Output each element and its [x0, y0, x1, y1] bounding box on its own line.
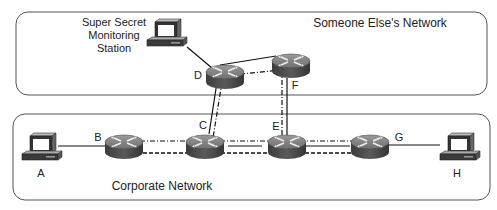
router-c-icon: [186, 135, 224, 159]
link-d-f-solid: [220, 56, 276, 65]
host-h-label: H: [453, 167, 461, 179]
link-d-c-dashdot: [213, 82, 222, 138]
link-monitor-d: [187, 47, 212, 68]
router-f-label: F: [292, 79, 299, 91]
host-a-label: A: [37, 167, 45, 179]
router-d-label: D: [194, 69, 202, 81]
monitoring-station-label-3: Station: [97, 42, 131, 54]
external-network-label: Someone Else's Network: [313, 16, 448, 30]
monitoring-station-computer-icon: [147, 19, 187, 46]
router-b-icon: [105, 135, 143, 159]
router-g-icon: [351, 135, 389, 159]
router-c-label: C: [199, 119, 207, 131]
link-d-c-solid: [209, 82, 217, 134]
host-a-computer-icon: [22, 133, 62, 160]
monitoring-station-label-2: Monitoring: [88, 29, 139, 41]
router-f-icon: [272, 54, 310, 78]
corporate-network-label: Corporate Network: [112, 179, 214, 193]
router-e-icon: [268, 135, 306, 159]
network-diagram: Someone Else's Network Corporate Network…: [0, 0, 497, 210]
router-b-label: B: [94, 131, 101, 143]
router-e-label: E: [272, 120, 279, 132]
monitoring-station-label-1: Super Secret: [82, 16, 146, 28]
router-g-label: G: [395, 131, 404, 143]
router-d-icon: [206, 65, 244, 89]
host-h-computer-icon: [440, 133, 480, 160]
corporate-network-zone: [13, 114, 490, 200]
